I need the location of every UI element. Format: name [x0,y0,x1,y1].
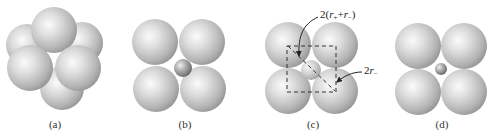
sphere-packing-figure [0,0,493,139]
panel-label-d: (d) [427,118,457,130]
panel-c-geometry [265,17,362,114]
label-sub: − [374,70,378,78]
sphere [55,45,101,91]
panel-a-octahedral-cluster [6,7,103,110]
label-text: 2( [320,8,329,20]
sphere [7,45,53,91]
sphere [179,19,225,65]
sphere [441,23,487,69]
panel-d-small-interstitial [395,23,487,115]
sphere [395,69,441,115]
small-sphere [174,59,192,77]
panel-label-b: (b) [170,118,200,130]
sphere [132,19,178,65]
sphere [312,22,358,68]
panel-label-c: (c) [298,118,328,130]
label-text: ) [352,8,356,20]
diagonal-label: 2(r++r−) [320,8,356,22]
small-sphere [435,63,447,75]
sphere [31,7,77,53]
small-sphere [301,60,321,80]
panel-label-a: (a) [40,118,70,130]
sphere [441,69,487,115]
panel-b-square-packing [132,19,226,112]
edge-label: 2r− [364,64,378,78]
sphere [133,66,179,112]
sphere [395,23,441,69]
